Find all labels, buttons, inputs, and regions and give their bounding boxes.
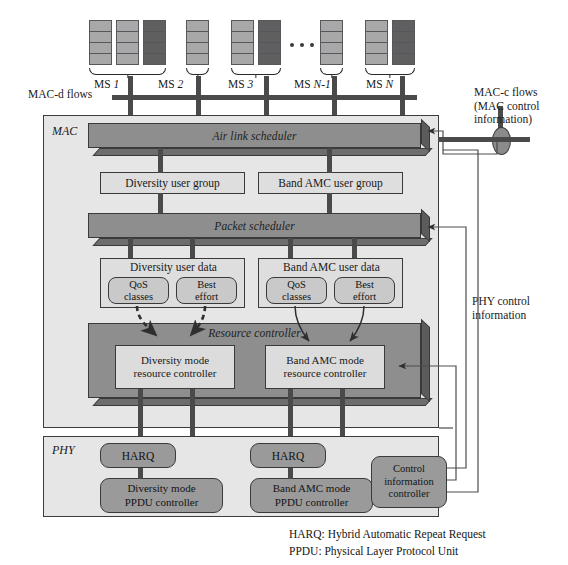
ms-block-segment — [90, 54, 111, 64]
slab-bottom-bevel — [92, 238, 432, 246]
diversity-best-line2: effort — [195, 291, 218, 302]
ms-block-segment — [366, 54, 387, 64]
ms-group-label: MS N — [366, 78, 393, 92]
slab-right-bevel — [421, 319, 430, 402]
band-amc-mode-rc-line2: resource controller — [284, 367, 367, 380]
diagram-canvas: MS 1 MS 2 MS 3 MS N-1 MS N MAC-d flows M… — [0, 0, 568, 565]
diversity-mode-resource-controller: Diversity mode resource controller — [115, 345, 235, 389]
ms-block-segment — [117, 32, 138, 43]
ms-group-label: MS 2 — [158, 78, 183, 92]
ms-block-segment — [393, 21, 414, 32]
diversity-qos-line2: classes — [124, 291, 153, 302]
ms-block-segment — [259, 32, 280, 43]
band-amc-user-data-label: Band AMC user data — [259, 261, 404, 275]
ms-bracket — [186, 68, 209, 75]
connector-packet-diversity-best — [190, 238, 195, 260]
legend: HARQ: Hybrid Automatic Repeat Request PP… — [289, 526, 486, 559]
mac-c-line2: (MAC control — [474, 100, 539, 114]
control-information-controller: Control information controller — [371, 456, 447, 508]
diversity-mode-ppdu-controller: Diversity mode PPDU controller — [100, 478, 223, 513]
diversity-best-effort: Best effort — [176, 277, 237, 304]
ms-block — [231, 20, 254, 65]
ms-block — [392, 20, 415, 65]
band-amc-best-line2: effort — [353, 291, 376, 302]
band-amc-qos-classes: QoS classes — [266, 277, 327, 304]
ms-block-segment — [144, 21, 165, 32]
band-amc-mode-resource-controller: Band AMC mode resource controller — [265, 345, 385, 389]
ms-block-segment — [90, 32, 111, 43]
phy-control-information-label: PHY control information — [472, 295, 530, 322]
ms-block — [186, 20, 209, 65]
diversity-user-group: Diversity user group — [100, 172, 245, 194]
air-link-scheduler-label: Air link scheduler — [212, 130, 296, 142]
ms-block-segment — [90, 43, 111, 54]
ms-block — [116, 20, 139, 65]
ms-group-label: MS 1 — [94, 78, 119, 92]
ms-block-segment — [187, 21, 208, 32]
connector-harq-amc-ppdu — [288, 468, 293, 479]
ms-block — [320, 20, 343, 65]
harq-diversity: HARQ — [100, 443, 176, 468]
slab-bottom-bevel — [92, 148, 432, 156]
ms-block-segment — [187, 43, 208, 54]
ms-block-segment — [187, 32, 208, 43]
diversity-mode-rc-line1: Diversity mode — [134, 354, 217, 367]
band-amc-mode-rc-line1: Band AMC mode — [284, 354, 367, 367]
ms-block-segment — [393, 32, 414, 43]
ms-block-segment — [321, 54, 342, 64]
ms-block-segment — [366, 21, 387, 32]
ms-block-segment — [117, 21, 138, 32]
slab-bottom-bevel — [92, 398, 432, 406]
diversity-qos-classes: QoS classes — [108, 277, 169, 304]
mac-layer-label: MAC — [52, 124, 77, 138]
ms-block-segment — [232, 21, 253, 32]
ms-block-segment — [321, 43, 342, 54]
mac-d-flows-bus — [112, 95, 417, 100]
diversity-ppdu-line2: PPDU controller — [125, 496, 199, 509]
connector-harq-div-ppdu — [138, 468, 143, 479]
ms-block-segment — [90, 21, 111, 32]
packet-scheduler-face: Packet scheduler — [88, 213, 421, 238]
ms-block-segment — [321, 32, 342, 43]
cic-line1: Control — [384, 463, 434, 476]
ms-group-label: MS 3 — [228, 78, 253, 92]
ms-block-segment — [232, 43, 253, 54]
diversity-user-data-label: Diversity user data — [101, 261, 246, 275]
mac-c-line3: information) — [474, 113, 539, 127]
ms-block-segment — [321, 21, 342, 32]
ms-block-segment — [259, 43, 280, 54]
diversity-qos-line1: QoS — [124, 279, 153, 290]
mac-d-flows-label: MAC-d flows — [28, 88, 92, 102]
band-amc-user-group-label: Band AMC user group — [278, 177, 382, 189]
ms-block-segment — [117, 43, 138, 54]
ms-block-segment — [259, 21, 280, 32]
ms-ellipsis — [290, 43, 314, 47]
ms-block-segment — [393, 54, 414, 64]
diversity-mode-rc-line2: resource controller — [134, 367, 217, 380]
packet-scheduler: Packet scheduler — [88, 213, 421, 238]
connector-bandamc-packet — [327, 193, 332, 215]
ms-block-segment — [393, 43, 414, 54]
band-amc-ppdu-line1: Band AMC mode — [273, 482, 351, 495]
connector-packet-diversity-qos — [128, 238, 133, 260]
ms-block-segment — [144, 54, 165, 64]
resource-controller-label: Resource controller — [208, 327, 301, 339]
ms-block-segment — [259, 54, 280, 64]
mac-c-bus — [438, 137, 530, 142]
ms-block-segment — [117, 54, 138, 64]
phy-ctrl-line2: information — [472, 309, 530, 323]
cic-line2: information — [384, 476, 434, 489]
connector-packet-bandamc-qos — [288, 238, 293, 260]
legend-harq: HARQ: Hybrid Automatic Repeat Request — [289, 526, 486, 543]
ms-block-segment — [232, 54, 253, 64]
diversity-user-group-label: Diversity user group — [125, 177, 220, 189]
ms-block-segment — [366, 32, 387, 43]
connector-packet-bandamc-best — [352, 238, 357, 260]
diversity-best-line1: Best — [195, 279, 218, 290]
band-amc-qos-line2: classes — [282, 291, 311, 302]
band-amc-best-effort: Best effort — [334, 277, 395, 304]
ms-block — [258, 20, 281, 65]
legend-ppdu: PPDU: Physical Layer Protocol Unit — [289, 543, 486, 560]
harq-diversity-label: HARQ — [122, 450, 155, 462]
band-amc-user-group: Band AMC user group — [258, 172, 403, 194]
